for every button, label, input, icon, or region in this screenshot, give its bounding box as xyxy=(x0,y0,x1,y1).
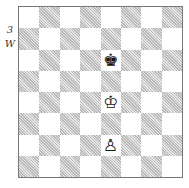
square-b1[interactable] xyxy=(39,156,59,177)
square-c1[interactable] xyxy=(60,156,80,177)
square-d3[interactable] xyxy=(80,113,100,134)
square-h8[interactable] xyxy=(162,7,182,28)
square-e4[interactable]: ♔ xyxy=(101,92,121,113)
square-e3[interactable] xyxy=(101,113,121,134)
square-b5[interactable] xyxy=(39,71,59,92)
square-e7[interactable] xyxy=(101,28,121,49)
square-a5[interactable] xyxy=(19,71,39,92)
square-c8[interactable] xyxy=(60,7,80,28)
square-h1[interactable] xyxy=(162,156,182,177)
square-f6[interactable] xyxy=(121,50,141,71)
square-a1[interactable] xyxy=(19,156,39,177)
square-e6[interactable]: ♚ xyxy=(101,50,121,71)
square-b8[interactable] xyxy=(39,7,59,28)
square-c2[interactable] xyxy=(60,135,80,156)
white-king-icon[interactable]: ♔ xyxy=(103,94,118,111)
square-f8[interactable] xyxy=(121,7,141,28)
square-d2[interactable] xyxy=(80,135,100,156)
square-h4[interactable] xyxy=(162,92,182,113)
square-f1[interactable] xyxy=(121,156,141,177)
square-b4[interactable] xyxy=(39,92,59,113)
square-c5[interactable] xyxy=(60,71,80,92)
black-king-icon[interactable]: ♚ xyxy=(103,52,118,69)
side-to-move: W xyxy=(4,38,16,50)
square-f4[interactable] xyxy=(121,92,141,113)
square-b3[interactable] xyxy=(39,113,59,134)
square-f7[interactable] xyxy=(121,28,141,49)
square-f2[interactable] xyxy=(121,135,141,156)
square-h2[interactable] xyxy=(162,135,182,156)
square-d8[interactable] xyxy=(80,7,100,28)
square-h7[interactable] xyxy=(162,28,182,49)
square-g7[interactable] xyxy=(141,28,161,49)
square-b6[interactable] xyxy=(39,50,59,71)
square-g8[interactable] xyxy=(141,7,161,28)
square-g6[interactable] xyxy=(141,50,161,71)
square-a7[interactable] xyxy=(19,28,39,49)
square-e8[interactable] xyxy=(101,7,121,28)
square-d5[interactable] xyxy=(80,71,100,92)
square-h3[interactable] xyxy=(162,113,182,134)
diagram-number: 3 xyxy=(4,24,16,36)
chess-board: ♚♔♙ xyxy=(18,6,183,178)
square-g1[interactable] xyxy=(141,156,161,177)
square-d6[interactable] xyxy=(80,50,100,71)
square-a8[interactable] xyxy=(19,7,39,28)
square-c3[interactable] xyxy=(60,113,80,134)
square-g3[interactable] xyxy=(141,113,161,134)
square-g5[interactable] xyxy=(141,71,161,92)
square-a4[interactable] xyxy=(19,92,39,113)
square-e5[interactable] xyxy=(101,71,121,92)
square-a3[interactable] xyxy=(19,113,39,134)
square-a2[interactable] xyxy=(19,135,39,156)
square-e2[interactable]: ♙ xyxy=(101,135,121,156)
square-f5[interactable] xyxy=(121,71,141,92)
square-c7[interactable] xyxy=(60,28,80,49)
square-c6[interactable] xyxy=(60,50,80,71)
square-h5[interactable] xyxy=(162,71,182,92)
square-d4[interactable] xyxy=(80,92,100,113)
square-b2[interactable] xyxy=(39,135,59,156)
square-e1[interactable] xyxy=(101,156,121,177)
square-h6[interactable] xyxy=(162,50,182,71)
white-pawn-icon[interactable]: ♙ xyxy=(103,137,118,154)
square-c4[interactable] xyxy=(60,92,80,113)
square-b7[interactable] xyxy=(39,28,59,49)
square-g4[interactable] xyxy=(141,92,161,113)
square-a6[interactable] xyxy=(19,50,39,71)
square-f3[interactable] xyxy=(121,113,141,134)
square-g2[interactable] xyxy=(141,135,161,156)
square-d1[interactable] xyxy=(80,156,100,177)
square-d7[interactable] xyxy=(80,28,100,49)
